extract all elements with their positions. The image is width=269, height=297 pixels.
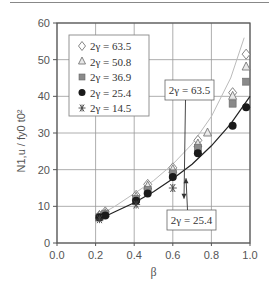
x-tick-label: 0.8 [204, 249, 219, 261]
y-tick-label: 30 [38, 127, 50, 139]
x-tick-label: 0.2 [88, 249, 103, 261]
x-tick-label: 1.0 [242, 249, 257, 261]
triangle-marker [204, 128, 212, 136]
legend-item-label: 2γ = 14.5 [90, 102, 132, 114]
circle-marker [242, 103, 250, 111]
y-tick-label: 40 [38, 90, 50, 102]
asterisk-marker [169, 184, 177, 192]
circle-marker [229, 122, 237, 130]
square-marker [243, 78, 250, 85]
circle-marker [169, 173, 177, 181]
arrow-head-icon [182, 194, 187, 199]
circle-marker [194, 149, 202, 157]
legend-item-label: 2γ = 25.4 [90, 87, 132, 99]
y-axis-label: N1,u / fy0 t0² [15, 109, 27, 172]
x-tick-label: 0.4 [127, 249, 142, 261]
annotation-label: 2γ = 63.5 [169, 84, 211, 96]
x-axis-label: β [150, 265, 156, 279]
chart-canvas: 0.00.20.40.60.81.00102030405060 2γ = 63.… [0, 0, 269, 297]
y-tick-label: 10 [38, 200, 50, 212]
y-tick-label: 50 [38, 54, 50, 66]
y-tick-label: 20 [38, 164, 50, 176]
annotation-arrow-line [184, 100, 186, 199]
x-tick-label: 0.0 [49, 249, 64, 261]
legend-item-label: 2γ = 63.5 [90, 40, 132, 52]
circle-marker [79, 89, 86, 96]
circle-marker [144, 190, 152, 198]
legend-item-label: 2γ = 36.9 [90, 71, 132, 83]
annotation-label: 2γ = 25.4 [171, 214, 213, 226]
y-tick-label: 60 [38, 17, 50, 29]
legend: 2γ = 63.52γ = 50.82γ = 36.92γ = 25.42γ =… [69, 35, 149, 116]
square-marker [79, 74, 85, 80]
legend-item-label: 2γ = 50.8 [90, 56, 132, 68]
y-tick-label: 0 [44, 237, 50, 249]
circle-marker [101, 212, 109, 220]
square-marker [229, 100, 236, 107]
triangle-marker [242, 62, 250, 70]
diamond-marker [242, 49, 250, 59]
x-tick-label: 0.6 [165, 249, 180, 261]
